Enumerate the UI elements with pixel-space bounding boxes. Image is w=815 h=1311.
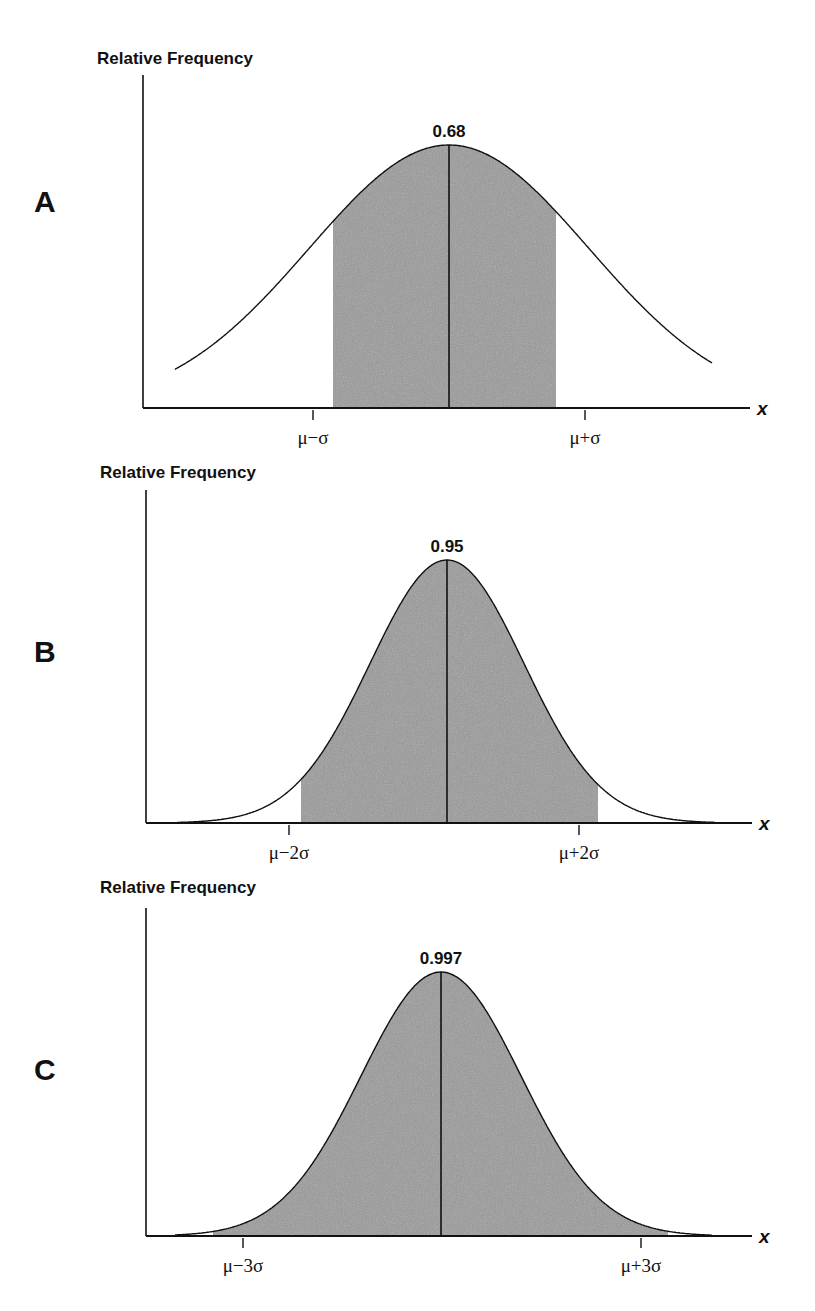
x-axis-variable: x (758, 1226, 771, 1247)
left-tick-label: μ−3σ (223, 1255, 264, 1276)
y-axis-label: Relative Frequency (100, 878, 256, 897)
peak-label: 0.68 (432, 122, 465, 141)
y-axis-label: Relative Frequency (100, 463, 256, 482)
normal-distribution-figure: Relative Frequency A 0.68 μ−σ μ+σ x Rela… (0, 0, 815, 1311)
left-tick-label: μ−2σ (269, 842, 310, 863)
right-tick-label: μ+σ (569, 427, 600, 448)
y-axis-label: Relative Frequency (97, 49, 253, 68)
panel-letter: B (34, 635, 56, 668)
shaded-area (301, 560, 598, 823)
x-axis-variable: x (758, 813, 771, 834)
left-tick-label: μ−σ (297, 427, 328, 448)
panel-b: Relative Frequency B 0.95 μ−2σ μ+2σ x (34, 463, 771, 863)
panel-a: Relative Frequency A 0.68 μ−σ μ+σ x (34, 49, 769, 448)
right-tick-label: μ+3σ (621, 1255, 662, 1276)
x-axis-variable: x (756, 398, 769, 419)
peak-label: 0.95 (430, 537, 463, 556)
panel-c: Relative Frequency C 0.997 μ−3σ μ+3σ x (34, 878, 771, 1276)
shaded-area (333, 145, 556, 408)
right-tick-label: μ+2σ (559, 842, 600, 863)
panel-letter: C (34, 1053, 56, 1086)
panel-letter: A (34, 185, 56, 218)
peak-label: 0.997 (420, 949, 463, 968)
